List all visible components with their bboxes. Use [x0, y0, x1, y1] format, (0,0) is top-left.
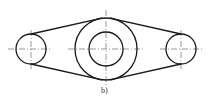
link-drawing: b): [0, 0, 211, 103]
lower-left-tangent: [31, 64, 102, 80]
upper-right-tangent: [110, 18, 181, 34]
upper-left-tangent: [31, 18, 102, 34]
lower-right-tangent: [110, 64, 181, 80]
figure-label: b): [101, 86, 108, 95]
